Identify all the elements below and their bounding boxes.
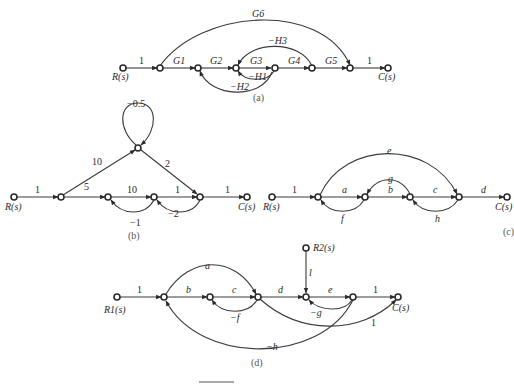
node-c-1 [315, 194, 321, 200]
edge-d-a [166, 265, 256, 294]
label-c-output: C(s) [495, 201, 513, 213]
edge-c-h [413, 200, 458, 211]
label-a-g2: G2 [210, 55, 222, 66]
node-c-3 [407, 194, 413, 200]
label-c-f: f [341, 213, 345, 224]
label-c-input: R(s) [262, 201, 280, 213]
label-c-h: h [435, 213, 440, 224]
label-d-h: −h [266, 341, 278, 352]
caption-a: (a) [253, 92, 264, 104]
node-c-2 [362, 194, 368, 200]
node-d-input2 [303, 245, 309, 251]
label-a-g4: G4 [288, 55, 300, 66]
label-b-10: 10 [127, 184, 137, 195]
graph-c: 1 a b c d e g f h R(s) C(s) (c) [262, 145, 514, 238]
node-d-4 [303, 294, 309, 300]
caption-c: (c) [503, 226, 514, 238]
node-c-input [269, 194, 275, 200]
label-c-b: b [388, 184, 393, 195]
signal-flow-graphs: 1 G1 G2 G3 G4 G5 1 G6 −H3 −H1 −H2 R(s) C… [0, 0, 514, 384]
edge-d-h [166, 300, 353, 349]
node-b-1 [58, 194, 64, 200]
label-c-d: d [481, 184, 487, 195]
node-d-input1 [114, 294, 120, 300]
label-a-output: C(s) [378, 71, 396, 83]
node-d-5 [350, 294, 356, 300]
label-d-c: c [232, 284, 237, 295]
node-c-output [504, 194, 510, 200]
node-b-top [135, 145, 141, 151]
edge-b-down [141, 150, 197, 194]
label-d-g: −g [310, 307, 322, 318]
label-d-skip: 1 [371, 317, 376, 328]
graph-b: 1 10 −0.5 2 5 10 1 1 −1 −2 R(s) C(s) (b) [4, 98, 256, 242]
label-a-out: 1 [367, 55, 372, 66]
node-b-2 [105, 194, 111, 200]
edge-c-f [321, 200, 364, 211]
edge-b-self [123, 103, 154, 145]
node-d-output [395, 294, 401, 300]
edge-b-fb1 [111, 200, 154, 212]
label-b-in: 1 [35, 184, 40, 195]
label-b-up: 10 [92, 156, 102, 167]
label-c-e: e [387, 145, 392, 156]
graph-a: 1 G1 G2 G3 G4 G5 1 G6 −H3 −H1 −H2 R(s) C… [111, 8, 396, 104]
label-b-5: 5 [84, 181, 89, 192]
node-a-1 [157, 65, 163, 71]
label-c-g: g [388, 173, 393, 184]
label-b-input: R(s) [4, 201, 22, 213]
node-b-3 [151, 194, 157, 200]
node-d-1 [161, 294, 167, 300]
label-d-l: l [309, 267, 312, 278]
edge-d-f [212, 300, 257, 311]
label-d-f: −f [230, 312, 241, 323]
label-d-input1: R1(s) [103, 304, 126, 316]
label-d-out: 1 [373, 284, 378, 295]
label-c-a: a [342, 184, 347, 195]
label-a-input: R(s) [111, 71, 129, 83]
label-b-fb1: −1 [130, 217, 141, 228]
label-a-in: 1 [139, 55, 144, 66]
label-b-fb2: −2 [168, 208, 179, 219]
label-d-e: e [328, 284, 333, 295]
node-a-6 [347, 65, 353, 71]
node-a-2 [195, 65, 201, 71]
label-b-1: 1 [175, 184, 180, 195]
node-a-5 [309, 65, 315, 71]
label-d-a: a [205, 260, 210, 271]
label-b-out: 1 [225, 184, 230, 195]
node-d-3 [255, 294, 261, 300]
label-d-output: C(s) [392, 302, 410, 314]
label-c-in: 1 [292, 184, 297, 195]
label-b-output: C(s) [238, 201, 256, 213]
graph-d: 1 b c d e 1 l a −f −g 1 −h R1(s) R2(s) C… [103, 242, 410, 369]
label-b-down: 2 [165, 158, 170, 169]
node-b-4 [197, 194, 203, 200]
label-a-h3: −H3 [268, 35, 287, 46]
label-c-c: c [433, 184, 438, 195]
caption-b: (b) [128, 230, 140, 242]
label-a-g3: G3 [250, 55, 262, 66]
label-d-d: d [278, 284, 284, 295]
label-a-h2: −H2 [230, 81, 249, 92]
label-d-b: b [186, 284, 191, 295]
caption-d: (d) [251, 357, 263, 369]
node-d-2 [207, 294, 213, 300]
label-a-g6: G6 [252, 8, 264, 19]
label-b-self: −0.5 [127, 98, 145, 109]
node-c-4 [456, 194, 462, 200]
label-d-in: 1 [137, 284, 142, 295]
label-a-g5: G5 [325, 55, 337, 66]
node-a-4 [272, 65, 278, 71]
label-d-input2: R2(s) [312, 242, 335, 254]
label-a-g1: G1 [173, 55, 185, 66]
node-b-input [11, 194, 17, 200]
node-a-3 [233, 65, 239, 71]
label-a-h1: −H1 [248, 71, 267, 82]
node-b-output [244, 194, 250, 200]
